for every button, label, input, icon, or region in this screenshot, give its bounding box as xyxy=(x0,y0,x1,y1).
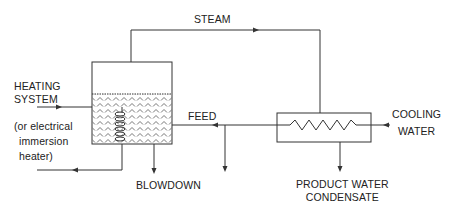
heating-label-line2: SYSTEM xyxy=(14,93,61,106)
heater-alt-line2: immersion xyxy=(14,134,73,149)
heater-alt-label: (or electrical immersion heater) xyxy=(14,119,73,164)
condenser xyxy=(277,113,371,142)
condenser-coil-icon xyxy=(277,120,390,130)
cooling-water-label: COOLING WATER xyxy=(392,108,441,138)
product-arrow-icon xyxy=(338,166,343,172)
feed-arrow-icon xyxy=(212,123,218,128)
cooling-label-line2: WATER xyxy=(392,125,441,138)
heating-return-arrow-icon xyxy=(72,168,78,173)
heating-system-label: HEATING SYSTEM xyxy=(14,80,61,106)
product-label-line2: CONDENSATE xyxy=(296,191,389,204)
cooling-label-line1: COOLING xyxy=(392,108,441,121)
heater-alt-line3: heater) xyxy=(14,149,73,164)
heating-label-line1: HEATING xyxy=(14,80,61,93)
cooling-water-arrow-icon xyxy=(383,123,389,128)
blowdown-label: BLOWDOWN xyxy=(136,179,201,192)
heater-alt-line1: (or electrical xyxy=(14,119,73,134)
product-label-line1: PRODUCT WATER xyxy=(296,178,389,191)
feed-drain-arrow-icon xyxy=(223,166,228,172)
product-water-label: PRODUCT WATER CONDENSATE xyxy=(296,178,389,204)
boiler-liquid xyxy=(93,95,172,144)
blowdown-arrow-icon xyxy=(152,168,157,174)
steam-label: STEAM xyxy=(194,13,231,26)
feed-label: FEED xyxy=(188,110,216,123)
steam-arrow-icon xyxy=(253,28,259,33)
